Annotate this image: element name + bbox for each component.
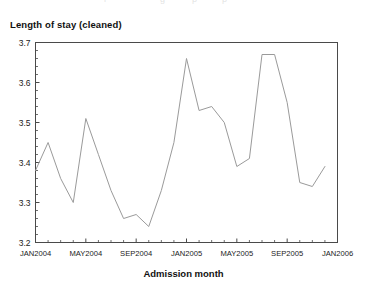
y-axis-tick-labels: 3.23.33.43.53.63.7 (19, 38, 31, 248)
x-tick-label: MAY2005 (220, 249, 253, 258)
x-axis-ticks (36, 239, 338, 243)
y-tick-label: 3.5 (19, 118, 31, 128)
x-tick-label: MAY2004 (69, 249, 102, 258)
x-tick-label: JAN2005 (171, 249, 202, 258)
plot-frame (36, 43, 338, 243)
x-tick-label: SEP2005 (271, 249, 303, 258)
y-axis-ticks (36, 43, 40, 243)
x-axis-tick-labels: JAN2004MAY2004SEP2004JAN2005MAY2005SEP20… (20, 249, 353, 258)
x-tick-label: SEP2004 (120, 249, 152, 258)
x-tick-label: JAN2006 (322, 249, 353, 258)
y-tick-label: 3.3 (19, 198, 31, 208)
chart-container: r g p p Length of stay (cleaned) 3.23.33… (0, 0, 367, 291)
y-tick-label: 3.2 (19, 238, 31, 248)
data-series-line (36, 55, 325, 227)
plot-area: 3.23.33.43.53.63.7 JAN2004MAY2004SEP2004… (0, 0, 367, 291)
x-axis-title: Admission month (0, 268, 367, 279)
x-tick-label: JAN2004 (20, 249, 51, 258)
y-tick-label: 3.7 (19, 38, 31, 48)
y-tick-label: 3.4 (19, 158, 31, 168)
y-tick-label: 3.6 (19, 78, 31, 88)
